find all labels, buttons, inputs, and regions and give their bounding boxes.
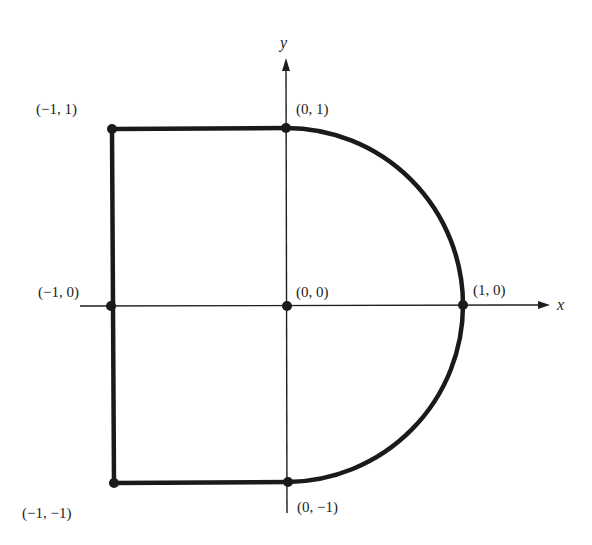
y-axis: y [278, 34, 290, 513]
x-axis-arrow-icon [538, 301, 550, 309]
label-m1-0: (−1, 0) [38, 284, 79, 301]
point-m1-1 [107, 124, 117, 134]
x-axis-label: x [556, 296, 564, 313]
point-labels: (−1, 1) (0, 1) (−1, 0) (0, 0) (1, 0) (−1… [22, 101, 506, 522]
point-0-1 [281, 123, 291, 133]
point-1-0 [458, 300, 468, 310]
point-m1-0 [106, 301, 116, 311]
y-axis-label: y [278, 34, 288, 52]
label-0-1: (0, 1) [296, 101, 329, 118]
label-m1-1: (−1, 1) [36, 101, 77, 118]
point-0-m1 [283, 477, 293, 487]
region-diagram: x y (−1, 1) (0, 1) (−1, 0) (0, 0) (1, 0)… [0, 0, 592, 545]
y-axis-arrow-icon [282, 58, 290, 71]
label-1-0: (1, 0) [473, 282, 506, 299]
label-0-0: (0, 0) [296, 284, 329, 301]
point-m1-m1 [109, 478, 119, 488]
label-0-m1: (0, −1) [297, 499, 338, 516]
label-m1-m1: (−1, −1) [22, 505, 71, 522]
point-0-0 [282, 301, 292, 311]
